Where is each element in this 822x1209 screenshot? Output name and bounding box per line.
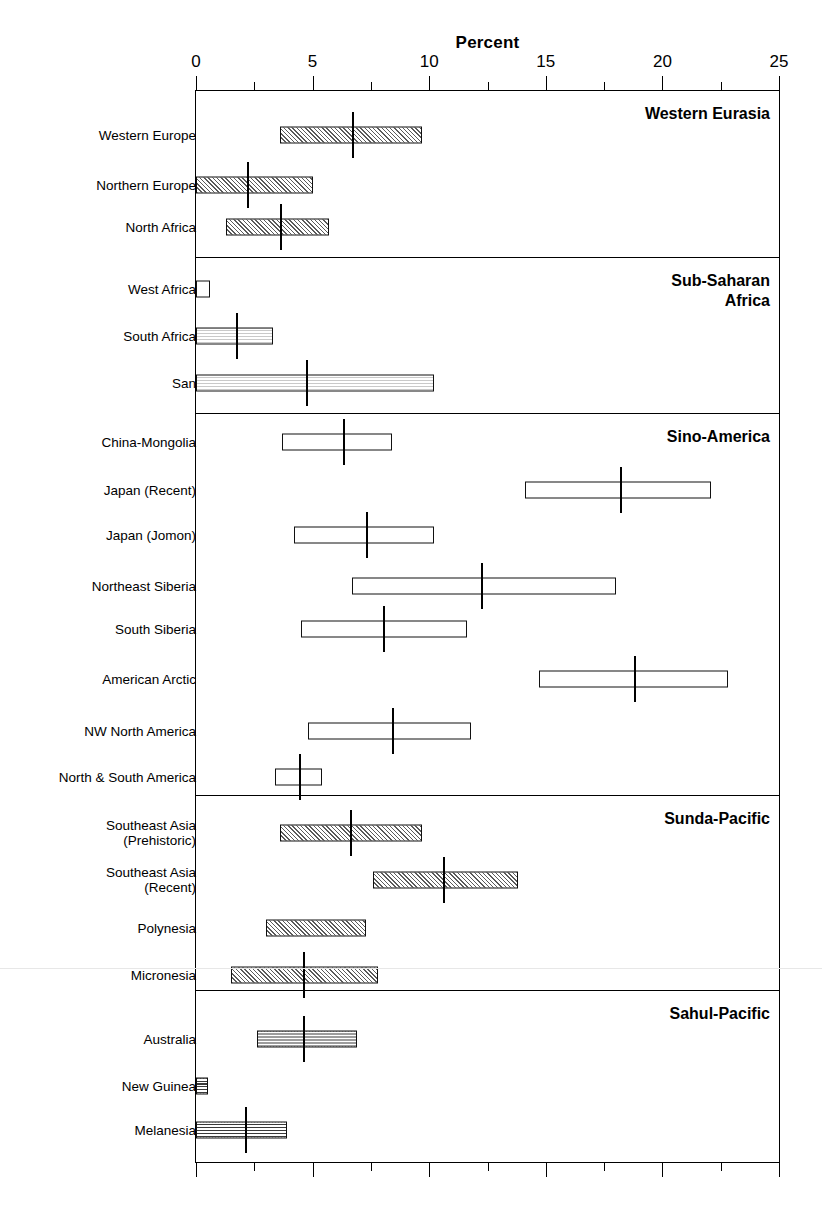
axis-tick-17.5 xyxy=(604,82,605,90)
row-label: NW North America xyxy=(84,724,196,739)
group-label-western-eurasia: Western Eurasia xyxy=(645,104,770,124)
axis-tick-2.5 xyxy=(254,82,255,90)
axis-tick-10 xyxy=(429,76,430,90)
range-bar xyxy=(196,1122,287,1139)
group-label-sunda-pacific: Sunda-Pacific xyxy=(664,809,770,829)
x-tick-label-10: 10 xyxy=(420,52,439,72)
axis-tick-15 xyxy=(546,76,547,90)
row-label: Micronesia xyxy=(131,968,196,983)
mean-marker xyxy=(481,563,483,609)
mean-marker xyxy=(299,754,301,800)
x-tick-label-0: 0 xyxy=(191,52,200,72)
mean-marker xyxy=(634,656,636,702)
row-label: Southeast Asia (Recent) xyxy=(106,865,196,895)
row-label: Northern Europe xyxy=(96,178,196,193)
range-bar xyxy=(280,127,422,144)
row-label: Australia xyxy=(143,1032,196,1047)
row-label: American Arctic xyxy=(102,672,196,687)
group-separator xyxy=(195,990,780,991)
row-label: Japan (Jomon) xyxy=(106,528,196,543)
row-label: North Africa xyxy=(125,220,196,235)
axis-tick-0 xyxy=(196,1163,197,1177)
x-tick-label-25: 25 xyxy=(770,52,789,72)
row-label: South Africa xyxy=(123,329,196,344)
mean-marker xyxy=(366,512,368,558)
mean-marker xyxy=(392,708,394,754)
mean-marker xyxy=(343,419,345,465)
axis-tick-15 xyxy=(546,1163,547,1177)
range-bar xyxy=(196,1078,208,1095)
mean-marker xyxy=(303,952,305,998)
axis-tick-5 xyxy=(313,76,314,90)
group-separator xyxy=(195,257,780,258)
axis-tick-25 xyxy=(779,1163,780,1177)
axis-tick-20 xyxy=(662,1163,663,1177)
row-label: Western Europe xyxy=(99,128,196,143)
range-bar xyxy=(294,527,434,544)
x-tick-label-15: 15 xyxy=(536,52,555,72)
scan-artifact-line xyxy=(0,968,822,969)
row-label: West Africa xyxy=(128,282,196,297)
row-label: South Siberia xyxy=(115,622,196,637)
row-label: New Guinea xyxy=(122,1079,196,1094)
range-bar xyxy=(196,177,313,194)
axis-tick-10 xyxy=(429,1163,430,1177)
axis-tick-7.5 xyxy=(371,82,372,90)
mean-marker xyxy=(620,467,622,513)
axis-tick-12.5 xyxy=(488,1163,489,1171)
axis-tick-2.5 xyxy=(254,1163,255,1171)
range-bar xyxy=(226,219,329,236)
group-label-sino-america: Sino-America xyxy=(667,427,770,447)
mean-marker xyxy=(247,162,249,208)
row-label: San xyxy=(172,376,196,391)
x-tick-label-5: 5 xyxy=(308,52,317,72)
mean-marker xyxy=(306,360,308,406)
mean-marker xyxy=(280,204,282,250)
axis-title: Percent xyxy=(196,33,779,53)
mean-marker xyxy=(383,606,385,652)
mean-marker xyxy=(350,810,352,856)
row-label: North & South America xyxy=(59,770,196,785)
row-label: Polynesia xyxy=(137,921,196,936)
axis-tick-20 xyxy=(662,76,663,90)
range-bar xyxy=(539,671,728,688)
axis-tick-22.5 xyxy=(721,82,722,90)
axis-tick-22.5 xyxy=(721,1163,722,1171)
axis-tick-12.5 xyxy=(488,82,489,90)
range-bar xyxy=(257,1031,357,1048)
figure-canvas: Percent 0510152025 Western EurasiaSub-Sa… xyxy=(0,0,822,1209)
range-bar xyxy=(308,723,471,740)
group-separator xyxy=(195,795,780,796)
mean-marker xyxy=(245,1107,247,1153)
mean-marker xyxy=(352,112,354,158)
mean-marker xyxy=(303,1016,305,1062)
group-label-sub-saharan-africa: Sub-Saharan Africa xyxy=(671,271,770,311)
row-label: China-Mongolia xyxy=(101,435,196,450)
plot-frame xyxy=(195,90,780,1163)
range-bar xyxy=(525,482,712,499)
range-bar xyxy=(373,872,518,889)
x-tick-label-20: 20 xyxy=(653,52,672,72)
range-bar xyxy=(196,328,273,345)
range-bar xyxy=(196,375,434,392)
axis-tick-17.5 xyxy=(604,1163,605,1171)
row-label: Melanesia xyxy=(134,1123,196,1138)
axis-tick-25 xyxy=(779,76,780,90)
range-bar xyxy=(266,920,366,937)
range-bar xyxy=(282,434,392,451)
row-label: Northeast Siberia xyxy=(92,579,196,594)
row-label: Southeast Asia (Prehistoric) xyxy=(106,818,196,848)
row-label: Japan (Recent) xyxy=(104,483,196,498)
mean-marker xyxy=(236,313,238,359)
axis-tick-5 xyxy=(313,1163,314,1177)
mean-marker xyxy=(443,857,445,903)
group-separator xyxy=(195,413,780,414)
range-bar xyxy=(352,578,616,595)
axis-tick-7.5 xyxy=(371,1163,372,1171)
group-label-sahul-pacific: Sahul-Pacific xyxy=(670,1004,770,1024)
range-bar xyxy=(196,281,210,298)
axis-tick-0 xyxy=(196,76,197,90)
